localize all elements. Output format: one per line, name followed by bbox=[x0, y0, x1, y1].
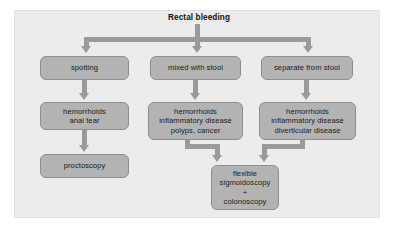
node-line: diverticular disease bbox=[275, 126, 341, 135]
arrowhead-to-mixed-with-stool bbox=[192, 46, 202, 53]
node-line: flexible bbox=[233, 169, 257, 178]
node-line: sigmoidoscopy bbox=[220, 178, 271, 187]
arrowhead-to-proctoscopy bbox=[79, 145, 89, 152]
node-line: inflammatory disease bbox=[271, 116, 344, 125]
node-line: proctoscopy bbox=[64, 161, 106, 170]
node-investigation-proctoscopy[interactable]: proctoscopy bbox=[40, 154, 129, 178]
arrowhead-to-causes-right bbox=[301, 93, 311, 100]
node-line: inflammatory disease bbox=[159, 116, 232, 125]
node-causes-left[interactable]: hemorrhoids anal tear bbox=[40, 102, 129, 130]
node-line: anal tear bbox=[69, 116, 99, 125]
node-line: spotting bbox=[71, 63, 98, 72]
node-line: hemorrhoids bbox=[174, 107, 217, 116]
node-line: hemorrhoids bbox=[63, 107, 106, 116]
arrowhead-to-separate-from-stool bbox=[303, 46, 313, 53]
node-line: mixed with stool bbox=[168, 63, 223, 72]
node-symptom-separate-from-stool[interactable]: separate from stool bbox=[261, 56, 353, 80]
node-symptom-spotting[interactable]: spotting bbox=[40, 56, 129, 80]
arrowhead-right-to-shared-investigation bbox=[259, 155, 269, 162]
node-causes-center[interactable]: hemorrhoids inflammatory disease polyps,… bbox=[148, 102, 243, 140]
arrowhead-center-to-shared-investigation bbox=[212, 155, 222, 162]
node-line: polyps, cancer bbox=[171, 126, 221, 135]
node-investigation-shared[interactable]: flexible sigmoidoscopy + colonoscopy bbox=[211, 165, 279, 210]
node-line: + bbox=[243, 188, 248, 197]
diagram-title: Rectal bleeding bbox=[143, 13, 255, 22]
elbow-right-horizontal bbox=[262, 144, 305, 149]
node-causes-right[interactable]: hemorrhoids inflammatory disease diverti… bbox=[259, 102, 356, 140]
arrowhead-to-causes-left bbox=[79, 93, 89, 100]
flowchart-stage: Rectal bleeding spotting mixed with stoo… bbox=[0, 0, 397, 240]
node-line: separate from stool bbox=[274, 63, 340, 72]
arrowhead-to-spotting bbox=[81, 46, 91, 53]
node-line: colonoscopy bbox=[224, 197, 267, 206]
arrowhead-to-causes-center bbox=[190, 93, 200, 100]
node-symptom-mixed-with-stool[interactable]: mixed with stool bbox=[150, 56, 241, 80]
node-line: hemorrhoids bbox=[286, 107, 329, 116]
